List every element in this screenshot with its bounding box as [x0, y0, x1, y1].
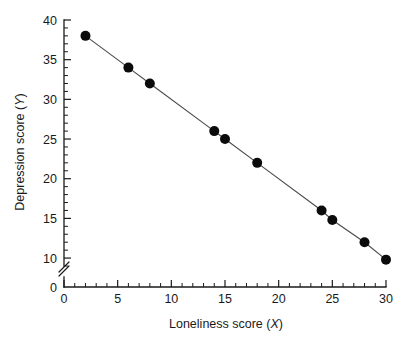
- data-point: [209, 126, 219, 136]
- data-point: [381, 255, 391, 265]
- x-tick-label: 10: [164, 292, 178, 306]
- data-point: [360, 237, 370, 247]
- x-tick-label: 0: [61, 292, 68, 306]
- y-tick-label: 20: [43, 172, 57, 186]
- y-tick-label: 30: [43, 93, 57, 107]
- x-tick-label: 30: [379, 292, 393, 306]
- data-point: [317, 205, 327, 215]
- x-tick-label: 20: [272, 292, 286, 306]
- x-axis-title: Loneliness score (X): [169, 317, 283, 331]
- chart-figure: 010152025303540 051015202530 Depression …: [0, 0, 412, 342]
- data-point: [327, 215, 337, 225]
- y-axis-title: Depression score (Y): [13, 93, 27, 210]
- data-point: [80, 31, 90, 41]
- data-point: [252, 158, 262, 168]
- x-tick-label: 25: [325, 292, 339, 306]
- x-tick-label: 5: [114, 292, 121, 306]
- data-point: [220, 134, 230, 144]
- data-point: [145, 78, 155, 88]
- y-tick-label: 35: [43, 53, 57, 67]
- plot-background: [0, 0, 412, 342]
- scatter-plot-canvas: 010152025303540 051015202530 Depression …: [0, 0, 412, 342]
- data-point: [123, 63, 133, 73]
- y-tick-label: 10: [43, 252, 57, 266]
- x-tick-label: 15: [218, 292, 232, 306]
- y-tick-label: 0: [50, 281, 57, 295]
- y-tick-label: 40: [43, 14, 57, 28]
- y-tick-label: 15: [43, 212, 57, 226]
- y-tick-label: 25: [43, 133, 57, 147]
